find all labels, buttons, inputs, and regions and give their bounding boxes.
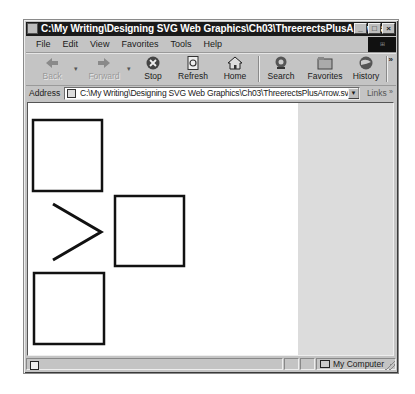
- status-security-pane: [300, 358, 315, 370]
- status-progress-pane: [284, 358, 299, 370]
- window-title: C:\My Writing\Designing SVG Web Graphics…: [41, 22, 394, 36]
- address-input[interactable]: C:\My Writing\Designing SVG Web Graphics…: [64, 87, 360, 100]
- toolbar-separator: [386, 56, 387, 82]
- rectangle-middle: [115, 196, 184, 266]
- menu-tools[interactable]: Tools: [170, 39, 191, 49]
- favorites-icon: [317, 56, 333, 70]
- browser-window: C:\My Writing\Designing SVG Web Graphics…: [23, 19, 399, 374]
- menu-edit[interactable]: Edit: [63, 39, 79, 49]
- address-bar: Address C:\My Writing\Designing SVG Web …: [26, 86, 396, 101]
- address-url[interactable]: C:\My Writing\Designing SVG Web Graphics…: [80, 88, 353, 99]
- arrow-chevron: [53, 204, 101, 260]
- stop-button[interactable]: Stop: [131, 55, 175, 83]
- search-button[interactable]: Search: [259, 55, 303, 83]
- menu-view[interactable]: View: [90, 39, 109, 49]
- svg-drawing: [28, 103, 298, 356]
- links-button[interactable]: Links »: [358, 88, 393, 98]
- close-button[interactable]: ×: [382, 23, 395, 34]
- resize-grip[interactable]: [385, 360, 395, 370]
- title-bar[interactable]: C:\My Writing\Designing SVG Web Graphics…: [26, 22, 396, 36]
- status-zone-pane: My Computer: [316, 358, 396, 370]
- side-pane: [298, 103, 393, 355]
- status-bar: My Computer: [26, 357, 396, 371]
- menu-bar: File Edit View Favorites Tools Help ⊞: [26, 37, 396, 53]
- back-arrow-icon: [44, 56, 60, 70]
- minimize-button[interactable]: _: [354, 23, 367, 34]
- back-button[interactable]: Back: [30, 55, 74, 83]
- menu-favorites[interactable]: Favorites: [121, 39, 158, 49]
- zone-label: My Computer: [333, 359, 384, 369]
- window-controls: _ □ ×: [354, 23, 395, 34]
- svg-viewport: [27, 102, 394, 356]
- back-dropdown-icon[interactable]: ▾: [74, 65, 78, 73]
- rectangle-top: [33, 120, 102, 191]
- status-text-pane: [26, 358, 283, 370]
- page-status-icon: [30, 361, 39, 370]
- refresh-icon: [185, 56, 201, 70]
- home-icon: [227, 56, 243, 70]
- history-icon: [358, 56, 374, 70]
- forward-button[interactable]: Forward: [82, 55, 126, 83]
- menu-file[interactable]: File: [36, 39, 51, 49]
- rectangle-bottom: [34, 273, 104, 344]
- home-button[interactable]: Home: [213, 55, 257, 83]
- my-computer-icon: [320, 360, 330, 368]
- address-label: Address: [29, 88, 60, 98]
- ie-app-icon[interactable]: [27, 23, 38, 34]
- stop-icon: [145, 56, 161, 70]
- history-button[interactable]: History: [344, 55, 388, 83]
- toolbar-overflow-chevron[interactable]: »: [389, 55, 393, 64]
- maximize-button[interactable]: □: [368, 23, 381, 34]
- windows-logo-throbber: ⊞: [368, 37, 396, 52]
- standard-toolbar: Back ▾ Forward ▾ Stop Refresh Home Searc…: [26, 53, 396, 86]
- windows-logo-icon: ⊞: [380, 41, 385, 47]
- refresh-button[interactable]: Refresh: [171, 55, 215, 83]
- menu-help[interactable]: Help: [203, 39, 222, 49]
- favorites-button[interactable]: Favorites: [303, 55, 347, 83]
- search-icon: [273, 56, 289, 70]
- forward-arrow-icon: [96, 56, 112, 70]
- page-icon: [67, 89, 76, 98]
